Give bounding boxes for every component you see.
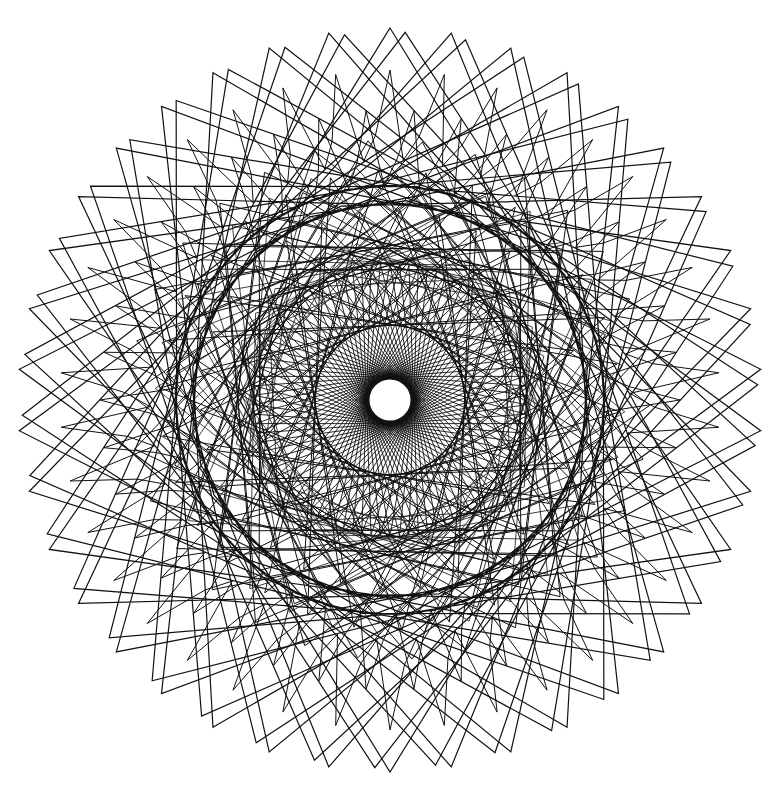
spirograph-figure [0, 0, 778, 798]
spirograph-rosette [0, 0, 778, 798]
center-hole [368, 378, 412, 422]
